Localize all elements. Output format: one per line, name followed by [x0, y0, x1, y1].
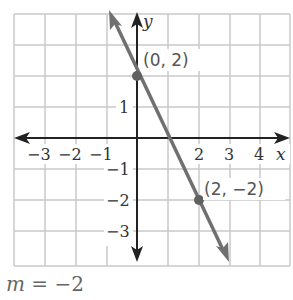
- x-axis-label: x: [276, 144, 286, 164]
- slope-variable: m: [6, 272, 25, 296]
- point-label-2-neg2: (2, −2): [204, 179, 264, 199]
- point-label-0-2: (0, 2): [143, 50, 189, 70]
- coordinate-plane: −3 −2 −1 2 3 4 x 1 −1 −2 −3 y (0, 2) (2,…: [0, 0, 293, 270]
- x-tick-neg2: −2: [58, 145, 82, 164]
- slope-annotation: m = −2: [6, 272, 84, 296]
- x-tick-3: 3: [224, 145, 234, 164]
- y-tick-1: 1: [119, 98, 129, 117]
- x-tick-4: 4: [254, 145, 264, 164]
- y-tick-neg2: −2: [106, 191, 130, 210]
- point-2-neg2: [194, 195, 204, 205]
- slope-value: = −2: [25, 272, 84, 296]
- point-0-2: [132, 71, 142, 81]
- y-tick-neg3: −3: [106, 222, 130, 241]
- y-tick-neg1: −1: [106, 160, 130, 179]
- y-axis-label: y: [142, 11, 153, 31]
- x-tick-2: 2: [194, 145, 204, 164]
- x-tick-neg3: −3: [27, 145, 51, 164]
